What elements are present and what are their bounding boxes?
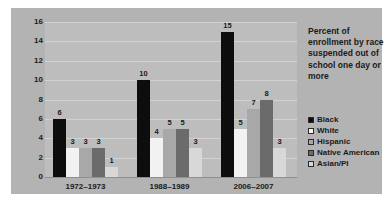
bar-value-label: 3: [70, 138, 74, 146]
bar-value-label: 6: [57, 109, 61, 117]
legend-item-label: Asian/PI: [317, 159, 349, 168]
chart-figure: 0246810121416 63331104553155783 Percent …: [0, 0, 392, 216]
bar[interactable]: 4: [150, 138, 163, 177]
bar-value-label: 3: [277, 138, 281, 146]
bar-value-label: 3: [96, 138, 100, 146]
bar-value-label: 5: [238, 119, 242, 127]
bar[interactable]: 5: [163, 129, 176, 177]
bar-group: 63331: [53, 22, 118, 177]
x-axis-category-label: 1972–1973: [39, 182, 132, 191]
y-axis-tick-label: 6: [17, 115, 43, 123]
legend-item[interactable]: Native American: [308, 147, 392, 158]
bar[interactable]: 5: [176, 129, 189, 177]
chart-panel: 0246810121416 63331104553155783 Percent …: [11, 8, 382, 194]
bar-slot: 3: [66, 22, 79, 177]
legend-item-label: Hispanic: [317, 137, 350, 146]
legend-item[interactable]: Asian/PI: [308, 158, 392, 169]
bar-value-label: 1: [109, 157, 113, 165]
bar-slot: 5: [176, 22, 189, 177]
bar[interactable]: 1: [105, 167, 118, 177]
y-axis-tick-label: 10: [17, 76, 43, 84]
bar-value-label: 15: [223, 22, 231, 30]
legend-item-label: Native American: [317, 148, 379, 157]
y-axis-tick-label: 14: [17, 37, 43, 45]
bar-value-label: 10: [139, 70, 147, 78]
y-axis-tick-label: 16: [17, 18, 43, 26]
legend-item-label: White: [317, 126, 339, 135]
legend-item[interactable]: Hispanic: [308, 136, 392, 147]
legend-item-label: Black: [317, 115, 338, 124]
bar-slot: 7: [247, 22, 260, 177]
bar[interactable]: 7: [247, 109, 260, 177]
bar-value-label: 8: [264, 90, 268, 98]
bar-slot: 1: [105, 22, 118, 177]
bar-slot: 3: [273, 22, 286, 177]
bar-value-label: 5: [167, 119, 171, 127]
legend-item[interactable]: White: [308, 125, 392, 136]
bar-slot: 6: [53, 22, 66, 177]
bar[interactable]: 3: [273, 148, 286, 177]
bar[interactable]: 3: [189, 148, 202, 177]
bar[interactable]: 10: [137, 80, 150, 177]
bar-value-label: 3: [83, 138, 87, 146]
bar-group: 155783: [221, 22, 286, 177]
bar[interactable]: 8: [260, 100, 273, 178]
bar-value-label: 4: [154, 128, 158, 136]
y-axis-tick-label: 8: [17, 96, 43, 104]
chart-annotation: Percent of enrollment by race suspended …: [308, 26, 392, 82]
bar-value-label: 7: [251, 99, 255, 107]
legend-swatch-icon: [308, 128, 314, 134]
bar[interactable]: 15: [221, 32, 234, 177]
x-axis-category-label: 1988–1989: [123, 182, 216, 191]
chart-legend: BlackWhiteHispanicNative AmericanAsian/P…: [308, 114, 392, 169]
bar-slot: 8: [260, 22, 273, 177]
legend-item[interactable]: Black: [308, 114, 392, 125]
bar-value-label: 3: [193, 138, 197, 146]
legend-swatch-icon: [308, 117, 314, 123]
y-axis-tick-label: 2: [17, 154, 43, 162]
bar-group: 104553: [137, 22, 202, 177]
y-axis-tick-label: 12: [17, 57, 43, 65]
bar-slot: 10: [137, 22, 150, 177]
bar-groups: 63331104553155783: [45, 22, 297, 177]
bar-value-label: 5: [180, 119, 184, 127]
x-axis-category-label: 2006–2007: [207, 182, 300, 191]
legend-swatch-icon: [308, 161, 314, 167]
bar-slot: 15: [221, 22, 234, 177]
bar[interactable]: 5: [234, 129, 247, 177]
bar[interactable]: 3: [92, 148, 105, 177]
bar-slot: 3: [92, 22, 105, 177]
y-axis-tick-label: 4: [17, 134, 43, 142]
bar-slot: 5: [163, 22, 176, 177]
y-axis: 0246810121416: [16, 22, 43, 177]
bar-slot: 3: [189, 22, 202, 177]
bar[interactable]: 3: [66, 148, 79, 177]
bar-slot: 4: [150, 22, 163, 177]
bar[interactable]: 3: [79, 148, 92, 177]
y-axis-tick-label: 0: [17, 173, 43, 181]
legend-swatch-icon: [308, 150, 314, 156]
gridline: [45, 177, 297, 178]
bar-slot: 5: [234, 22, 247, 177]
bar[interactable]: 6: [53, 119, 66, 177]
bar-slot: 3: [79, 22, 92, 177]
legend-swatch-icon: [308, 139, 314, 145]
